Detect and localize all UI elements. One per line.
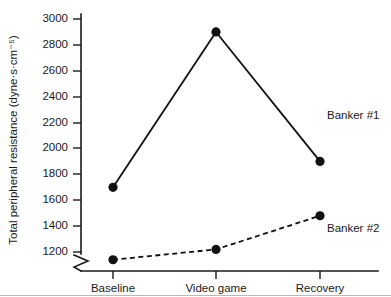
data-point-banker1-baseline <box>108 183 117 192</box>
y-tick-label-3000: 3000 <box>42 12 68 24</box>
y-tick-label-1200: 1200 <box>42 245 68 257</box>
y-tick-label-2600: 2600 <box>42 64 68 76</box>
series-label-banker-1: Banker #1 <box>327 109 379 121</box>
x-tick-label-recovery: Recovery <box>296 282 345 294</box>
y-axis-title: Total peripheral resistance (dyne·s·cm⁻⁵… <box>7 35 19 245</box>
data-point-banker1-video-game <box>211 27 220 36</box>
y-tick-label-2000: 2000 <box>42 141 68 153</box>
x-tick-label-video-game: Video game <box>185 282 246 294</box>
data-point-banker2-baseline <box>108 255 117 264</box>
x-tick-label-baseline: Baseline <box>91 282 135 294</box>
line-chart: Total peripheral resistance (dyne·s·cm⁻⁵… <box>0 0 391 297</box>
data-point-banker1-recovery <box>315 157 324 166</box>
y-tick-label-1800: 1800 <box>42 167 68 179</box>
y-tick-label-2400: 2400 <box>42 90 68 102</box>
y-tick-label-1400: 1400 <box>42 219 68 231</box>
data-point-banker2-recovery <box>315 211 324 220</box>
y-tick-label-1600: 1600 <box>42 193 68 205</box>
y-tick-label-2200: 2200 <box>42 116 68 128</box>
y-tick-label-2800: 2800 <box>42 38 68 50</box>
data-point-banker2-video-game <box>211 245 220 254</box>
figure-container: Total peripheral resistance (dyne·s·cm⁻⁵… <box>0 0 391 297</box>
series-label-banker-2: Banker #2 <box>327 222 379 234</box>
